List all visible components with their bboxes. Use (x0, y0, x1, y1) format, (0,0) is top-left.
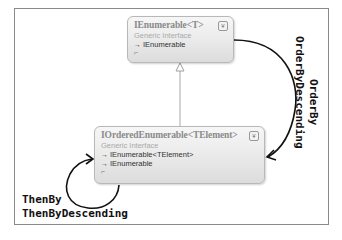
member-label: IEnumerable (143, 40, 186, 49)
interface-arrow-icon: → (101, 151, 108, 158)
member-label: IEnumerable (110, 159, 153, 168)
type-kind: Generic Interface (101, 141, 258, 150)
collapse-chevron-icon[interactable]: ¥ (218, 21, 228, 31)
member-row: →IEnumerable<TElement> (101, 150, 258, 159)
edge-label-orderby: OrderBy (307, 79, 320, 125)
collapse-chevron-icon[interactable]: ¥ (249, 131, 259, 141)
edge-label-orderbydescending: OrderByDescending (293, 36, 306, 149)
type-kind: Generic Interface (134, 31, 227, 40)
type-title: IEnumerable<T> (134, 20, 227, 30)
type-box-iorderedenumerable[interactable]: IOrderedEnumerable<TElement> Generic Int… (94, 126, 265, 184)
inheritance-arrowhead-icon (176, 63, 184, 71)
expand-members-icon[interactable]: ⌐ (101, 168, 258, 176)
type-box-ienumerable[interactable]: IEnumerable<T> Generic Interface →IEnume… (127, 16, 234, 63)
type-title: IOrderedEnumerable<TElement> (101, 130, 258, 140)
edge-label-thenby: ThenBy (22, 193, 62, 206)
expand-members-icon[interactable]: ⌐ (134, 49, 227, 57)
member-row: →IEnumerable (134, 40, 227, 49)
interface-arrow-icon: → (101, 160, 108, 167)
member-label: IEnumerable<TElement> (110, 150, 193, 159)
member-row: →IEnumerable (101, 159, 258, 168)
interface-arrow-icon: → (134, 41, 141, 48)
edge-label-thenbydescending: ThenByDescending (22, 207, 128, 220)
